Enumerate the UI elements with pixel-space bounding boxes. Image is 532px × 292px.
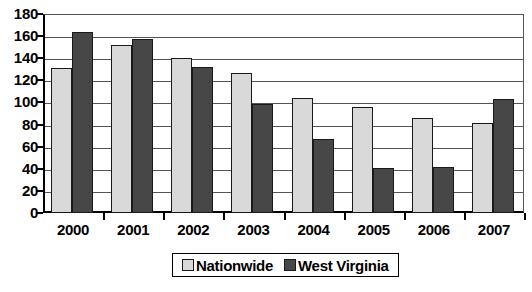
x-axis-tick-mark xyxy=(524,213,526,220)
bar-group xyxy=(163,14,223,213)
bar-nationwide-2001 xyxy=(111,45,132,213)
bar-group xyxy=(43,14,103,213)
x-axis-tick-mark xyxy=(284,213,286,220)
bar-nationwide-2005 xyxy=(352,107,373,213)
bar-nationwide-2003 xyxy=(231,73,252,213)
legend-label-nationwide: Nationwide xyxy=(196,257,273,274)
x-axis-tick-mark xyxy=(163,213,165,220)
bar-west-virginia-2003 xyxy=(252,104,273,213)
bar-nationwide-2006 xyxy=(412,118,433,213)
x-axis-tick-mark xyxy=(464,213,466,220)
bar-nationwide-2007 xyxy=(472,123,493,213)
y-axis-tick-label: 80 xyxy=(4,117,38,132)
bar-group xyxy=(464,14,524,213)
x-axis-tick-mark xyxy=(344,213,346,220)
x-axis-tick-mark xyxy=(404,213,406,220)
bar-west-virginia-2000 xyxy=(72,32,93,213)
x-axis-tick-label: 2003 xyxy=(223,222,283,237)
bar-west-virginia-2001 xyxy=(132,39,153,213)
x-axis-tick-label: 2007 xyxy=(464,222,524,237)
y-axis-tick-label: 180 xyxy=(4,6,38,21)
y-axis-tick-label: 40 xyxy=(4,161,38,176)
legend-label-west-virginia: West Virginia xyxy=(298,257,389,274)
legend-entry-nationwide: Nationwide xyxy=(182,257,273,274)
y-axis-tick-label: 120 xyxy=(4,72,38,87)
bar-group xyxy=(404,14,464,213)
bar-west-virginia-2002 xyxy=(192,67,213,213)
bars-layer xyxy=(43,14,524,213)
x-axis-tick-label: 2005 xyxy=(344,222,404,237)
dark-gray-swatch-icon xyxy=(284,259,296,271)
bar-west-virginia-2005 xyxy=(373,168,394,213)
y-axis-tick-label: 160 xyxy=(4,28,38,43)
bar-group xyxy=(344,14,404,213)
bar-nationwide-2000 xyxy=(51,68,72,213)
chart-legend: Nationwide West Virginia xyxy=(172,253,399,277)
bar-group xyxy=(103,14,163,213)
bar-group xyxy=(223,14,283,213)
x-axis-tick-label: 2000 xyxy=(43,222,103,237)
y-axis-tick-label: 100 xyxy=(4,94,38,109)
light-gray-swatch-icon xyxy=(182,259,194,271)
bar-west-virginia-2007 xyxy=(493,99,514,213)
y-axis-tick-label: 60 xyxy=(4,139,38,154)
bar-nationwide-2004 xyxy=(292,98,313,213)
bar-chart: 180160140120100806040200 200020012002200… xyxy=(0,0,532,292)
x-axis-tick-mark xyxy=(223,213,225,220)
x-axis-tick-mark xyxy=(103,213,105,220)
legend-entry-west-virginia: West Virginia xyxy=(284,257,389,274)
bar-group xyxy=(284,14,344,213)
bar-west-virginia-2004 xyxy=(313,139,334,213)
y-axis-tick-label: 20 xyxy=(4,183,38,198)
y-axis-tick-label: 140 xyxy=(4,50,38,65)
x-axis-tick-label: 2001 xyxy=(103,222,163,237)
x-axis-tick-label: 2002 xyxy=(163,222,223,237)
x-axis-tick-label: 2004 xyxy=(284,222,344,237)
bar-nationwide-2002 xyxy=(171,58,192,213)
x-axis-tick-label: 2006 xyxy=(404,222,464,237)
bar-west-virginia-2006 xyxy=(433,167,454,213)
y-axis-tick-label: 0 xyxy=(4,205,38,220)
